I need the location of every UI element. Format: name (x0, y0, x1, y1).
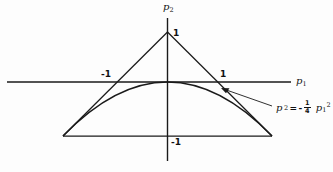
equation-fraction: 1 4 (304, 100, 311, 115)
x-axis-label-subscript: 1 (302, 80, 306, 88)
y-axis-label: p2 (163, 2, 174, 13)
figure-canvas: p2 p1 1 -1 1 -1 p2 = - 1 4 p12 (0, 0, 333, 172)
tick-label-y-positive-one: 1 (173, 29, 179, 38)
parabola-equation-annotation: p2 = - 1 4 p12 (276, 100, 331, 115)
plot-svg (0, 0, 333, 172)
equation-rhs: p12 (316, 101, 331, 114)
equation-lhs-subscript: 2 (284, 104, 288, 112)
tick-label-x-negative-one: -1 (101, 70, 111, 79)
equation-rhs-superscript: 2 (326, 101, 330, 109)
tick-label-x-positive-one: 1 (220, 70, 226, 79)
equation-lhs-symbol: p (276, 102, 282, 113)
y-axis-label-subscript: 2 (169, 6, 173, 14)
equation-minus-sign: - (299, 103, 303, 113)
x-axis-label: p1 (296, 76, 307, 87)
tick-label-y-negative-one: -1 (171, 138, 181, 147)
equation-equals-sign: = (290, 103, 298, 113)
fraction-numerator: 1 (305, 100, 310, 107)
fraction-denominator: 4 (305, 108, 310, 115)
annotation-leader-line (225, 90, 272, 107)
